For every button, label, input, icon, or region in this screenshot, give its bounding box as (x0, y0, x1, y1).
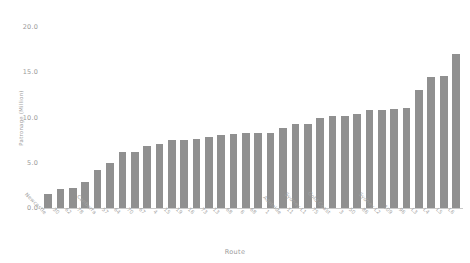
bar (44, 194, 52, 208)
bar (329, 116, 337, 208)
x-tick-slot: L3 (413, 210, 425, 250)
bar-slot (252, 18, 264, 208)
bar-slot (203, 18, 215, 208)
y-axis-tick-label: 5.0 (27, 159, 38, 167)
bar (254, 133, 262, 208)
bar (119, 152, 127, 208)
x-tick-slot: 4 (153, 210, 165, 250)
y-axis-title: Patronage (Million) (18, 73, 24, 163)
x-axis-tick-label: 4 (153, 209, 160, 216)
bar-slot (339, 18, 351, 208)
bar-slot (227, 18, 239, 208)
x-tick-slot: 16 (190, 210, 202, 250)
y-axis-tick-label: 20.0 (23, 23, 38, 31)
bar (143, 146, 151, 208)
bar (94, 170, 102, 208)
bar (316, 118, 324, 208)
x-tick-slot: 96 (400, 210, 412, 250)
bar-slot (400, 18, 412, 208)
bar-slot (289, 18, 301, 208)
bar (57, 189, 65, 208)
bar-slot (129, 18, 141, 208)
bar-slot (67, 18, 79, 208)
x-tick-slot: L6 (450, 210, 462, 250)
bar (242, 133, 250, 208)
x-tick-slot: 13 (215, 210, 227, 250)
x-tick-slot: 19 (178, 210, 190, 250)
bar-slot (450, 18, 462, 208)
bar (440, 76, 448, 208)
bar-chart: 0.05.010.015.020.0 Patronage (Million) N… (0, 0, 470, 263)
x-tick-slot: 78 (79, 210, 91, 250)
bar-slot (351, 18, 363, 208)
x-axis-tick-label: 6 (239, 209, 246, 216)
bar-slot (153, 18, 165, 208)
x-tick-slot: 62 (67, 210, 79, 250)
x-tick-slot: 3 (339, 210, 351, 250)
x-axis-tick-label: 3 (338, 209, 345, 216)
x-tick-slot: 73 (203, 210, 215, 250)
bar (366, 110, 374, 208)
x-tick-slot: 70 (129, 210, 141, 250)
y-axis-tick-label: 10.0 (23, 114, 38, 122)
x-tick-slot: 11 (289, 210, 301, 250)
bar (390, 109, 398, 208)
x-tick-slot: 64 (116, 210, 128, 250)
x-tick-slot: L4 (425, 210, 437, 250)
plot-area (42, 18, 462, 208)
bar (205, 137, 213, 208)
bar-slot (190, 18, 202, 208)
bar-slot (277, 18, 289, 208)
bar-slot (302, 18, 314, 208)
bar-slot (438, 18, 450, 208)
bar (106, 163, 114, 208)
x-tick-slot: 15 (166, 210, 178, 250)
bar-slot (413, 18, 425, 208)
bar-slot (178, 18, 190, 208)
bar-slot (264, 18, 276, 208)
bar (427, 77, 435, 208)
bar-slot (141, 18, 153, 208)
bar-slot (376, 18, 388, 208)
x-tick-slot: L5 (438, 210, 450, 250)
x-axis-ticks: Newcastle306278Canberra57647067415191673… (42, 210, 462, 250)
bar-slot (166, 18, 178, 208)
bar-series (42, 18, 462, 208)
y-axis-tick-label: 15.0 (23, 68, 38, 76)
x-axis-title: Route (0, 248, 470, 256)
x-tick-slot: 75 (314, 210, 326, 250)
bar-slot (425, 18, 437, 208)
bar-slot (326, 18, 338, 208)
bar (452, 54, 460, 208)
bar (131, 152, 139, 208)
x-tick-slot: Canberra (91, 210, 103, 250)
bar (341, 116, 349, 208)
bar (156, 144, 164, 208)
bar-slot (54, 18, 66, 208)
bar (230, 134, 238, 208)
x-tick-slot: 57 (104, 210, 116, 250)
bar-slot (240, 18, 252, 208)
x-tick-slot: 1 (264, 210, 276, 250)
x-tick-slot: 109 (388, 210, 400, 250)
x-tick-slot: Sydney L1 (302, 210, 314, 250)
x-tick-slot: Gold Coast (326, 210, 338, 250)
x-tick-slot: 68 (227, 210, 239, 250)
x-tick-slot: 67 (141, 210, 153, 250)
x-tick-slot: 86 (363, 210, 375, 250)
x-tick-slot: 50 (351, 210, 363, 250)
bar-slot (388, 18, 400, 208)
bar-slot (104, 18, 116, 208)
x-axis-tick-label: 1 (264, 209, 271, 216)
x-tick-slot: Adelaide (277, 210, 289, 250)
x-tick-slot: Newcastle (42, 210, 54, 250)
bar (180, 140, 188, 208)
x-tick-slot: Sydney L2 (376, 210, 388, 250)
bar-slot (215, 18, 227, 208)
bar (403, 108, 411, 208)
bar-slot (363, 18, 375, 208)
bar-slot (42, 18, 54, 208)
bar (168, 140, 176, 208)
bar-slot (91, 18, 103, 208)
bar (415, 90, 423, 208)
